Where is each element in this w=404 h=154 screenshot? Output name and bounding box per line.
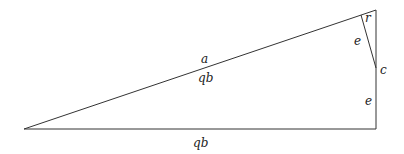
label-r: r (365, 11, 372, 25)
label-a: a (201, 52, 208, 66)
label-qb-base: qb (193, 136, 208, 150)
triangle-diagram: a qb r e c e qb (0, 0, 404, 154)
label-qb-hypotenuse: qb (198, 71, 213, 85)
hypotenuse-edge (24, 10, 376, 129)
label-c: c (380, 63, 387, 77)
label-e-slant: e (354, 34, 361, 48)
label-e-vertical: e (365, 94, 372, 108)
